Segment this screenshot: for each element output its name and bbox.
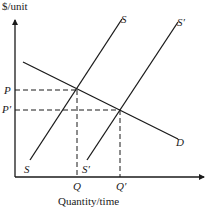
price-label-p: P [4,85,11,96]
supply-shifted-label-bottom: S′ [82,164,90,175]
demand-label: D [176,137,184,148]
quantity-label-q: Q [73,181,81,192]
supply-label-bottom: S [24,164,30,175]
supply-shifted-label-top: S′ [177,17,185,28]
supply-demand-diagram [0,0,207,211]
price-label-p-prime: P′ [2,104,11,115]
demand-curve [23,62,178,139]
supply-label-top: S [121,14,127,25]
y-axis-label: $/unit [2,1,28,12]
supply-shifted-curve [87,22,178,160]
quantity-label-q-prime: Q′ [116,181,126,192]
x-axis-label: Quantity/time [58,196,119,207]
